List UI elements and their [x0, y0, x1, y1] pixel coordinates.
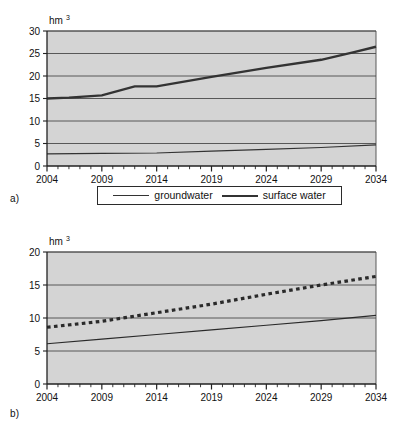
y-tick-label: 15 [29, 93, 41, 104]
x-tick-label: 2024 [255, 392, 278, 403]
x-tick-label: 2014 [146, 174, 169, 185]
x-tick-label: 2029 [310, 392, 333, 403]
legend-label-surface-water: surface water [263, 190, 326, 201]
y-tick-label: 10 [29, 116, 41, 127]
legend-entry-groundwater: groundwater [113, 190, 212, 201]
y-axis-unit-label: hm3 [49, 14, 70, 27]
panel-label-b: b) [10, 408, 19, 419]
y-tick-label: 5 [34, 346, 40, 357]
y-tick-label: 15 [29, 280, 41, 291]
legend-entry-surface-water: surface water [222, 190, 326, 201]
y-tick-label: 5 [34, 138, 40, 149]
y-tick-label: 20 [29, 71, 41, 82]
y-tick-label: 25 [29, 48, 41, 59]
x-tick-label: 2004 [36, 174, 59, 185]
line-chart-b: 051015202004200920142019202420292034hm3 [0, 216, 393, 436]
y-axis-unit-label: hm3 [49, 235, 70, 248]
legend-line-swatch-groundwater [113, 195, 149, 196]
x-tick-label: 2024 [255, 174, 278, 185]
y-tick-label: 0 [34, 161, 40, 172]
legend-label-groundwater: groundwater [154, 190, 212, 201]
legend-line-swatch-surface-water [222, 195, 258, 197]
x-tick-label: 2004 [36, 392, 59, 403]
x-tick-label: 2019 [200, 174, 223, 185]
chart-panel-b: 051015202004200920142019202420292034hm3 … [0, 216, 393, 436]
x-tick-label: 2029 [310, 174, 333, 185]
svg-text:hm: hm [49, 15, 63, 26]
x-tick-label: 2034 [365, 174, 388, 185]
x-tick-label: 2034 [365, 392, 388, 403]
panel-label-a: a) [10, 193, 19, 204]
line-chart-a: 0510152025302004200920142019202420292034… [0, 0, 393, 215]
x-tick-label: 2014 [146, 392, 169, 403]
x-tick-label: 2019 [200, 392, 223, 403]
x-tick-label: 2009 [91, 174, 114, 185]
y-tick-label: 20 [29, 247, 41, 258]
svg-text:hm: hm [49, 236, 63, 247]
y-tick-label: 30 [29, 26, 41, 37]
x-tick-label: 2009 [91, 392, 114, 403]
svg-text:3: 3 [66, 235, 70, 242]
y-tick-label: 0 [34, 379, 40, 390]
svg-text:3: 3 [66, 14, 70, 21]
chart-panel-a: 0510152025302004200920142019202420292034… [0, 0, 393, 215]
legend-panel-a: groundwater surface water [97, 186, 342, 205]
y-tick-label: 10 [29, 313, 41, 324]
